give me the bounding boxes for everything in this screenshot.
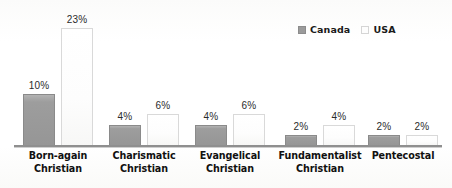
bar-canada-4[interactable]: 2% bbox=[285, 135, 317, 145]
bar-usa-1[interactable]: 23% bbox=[61, 28, 93, 145]
bar-chart: Canada USA 10%23%4%6%4%6%2%4%2%2% Born-a… bbox=[0, 0, 452, 188]
bar-rect bbox=[23, 94, 55, 145]
bar-value-label: 4% bbox=[204, 111, 219, 122]
bar-group: 4%6% bbox=[109, 0, 179, 147]
bar-rect bbox=[147, 114, 179, 145]
category-label: Born-againChristian bbox=[8, 150, 108, 175]
chart-legend: Canada USA bbox=[298, 24, 396, 35]
category-label-line1: Evangelical bbox=[200, 150, 260, 161]
bar-rect bbox=[406, 135, 438, 145]
category-label: Pentecostal bbox=[353, 150, 452, 163]
category-axis-labels: Born-againChristianCharismaticChristianE… bbox=[0, 150, 452, 188]
bar-value-label: 2% bbox=[377, 121, 392, 132]
bar-group: 4%6% bbox=[195, 0, 265, 147]
category-label-line2: Christian bbox=[180, 163, 280, 176]
canada-swatch-icon bbox=[298, 26, 306, 34]
category-label-line1: Pentecostal bbox=[372, 150, 435, 161]
legend-entry-canada[interactable]: Canada bbox=[298, 24, 350, 35]
bar-group: 2%4% bbox=[285, 0, 355, 147]
plot-area: 10%23%4%6%4%6%2%4%2%2% bbox=[0, 0, 452, 147]
category-label: CharismaticChristian bbox=[94, 150, 194, 175]
bar-rect bbox=[233, 114, 265, 145]
bar-rect bbox=[61, 28, 93, 145]
category-label-line1: Born-again bbox=[29, 150, 87, 161]
legend-entry-usa[interactable]: USA bbox=[361, 24, 395, 35]
bar-value-label: 10% bbox=[29, 80, 50, 91]
bar-rect bbox=[109, 125, 141, 145]
bar-canada-3[interactable]: 4% bbox=[195, 125, 227, 145]
category-label-line1: Fundamentalist bbox=[279, 150, 362, 161]
bar-usa-5[interactable]: 2% bbox=[406, 135, 438, 145]
category-label-line2: Christian bbox=[94, 163, 194, 176]
bar-value-label: 23% bbox=[67, 14, 88, 25]
bar-usa-2[interactable]: 6% bbox=[147, 114, 179, 145]
bar-group: 2%2% bbox=[368, 0, 438, 147]
bar-group: 10%23% bbox=[23, 0, 93, 147]
legend-label-canada: Canada bbox=[310, 24, 350, 35]
category-label-line2: Christian bbox=[270, 163, 370, 176]
bar-rect bbox=[323, 125, 355, 145]
x-axis-line bbox=[14, 145, 442, 147]
bar-usa-3[interactable]: 6% bbox=[233, 114, 265, 145]
category-label: EvangelicalChristian bbox=[180, 150, 280, 175]
bar-value-label: 4% bbox=[118, 111, 133, 122]
bar-canada-2[interactable]: 4% bbox=[109, 125, 141, 145]
bar-usa-4[interactable]: 4% bbox=[323, 125, 355, 145]
bar-rect bbox=[195, 125, 227, 145]
bar-canada-1[interactable]: 10% bbox=[23, 94, 55, 145]
category-label-line1: Charismatic bbox=[112, 150, 175, 161]
bar-canada-5[interactable]: 2% bbox=[368, 135, 400, 145]
bar-rect bbox=[368, 135, 400, 145]
bar-value-label: 4% bbox=[332, 111, 347, 122]
bar-value-label: 2% bbox=[294, 121, 309, 132]
bar-value-label: 6% bbox=[156, 100, 171, 111]
legend-label-usa: USA bbox=[373, 24, 395, 35]
bar-value-label: 6% bbox=[242, 100, 257, 111]
usa-swatch-icon bbox=[361, 26, 369, 34]
bar-rect bbox=[285, 135, 317, 145]
bar-value-label: 2% bbox=[415, 121, 430, 132]
category-label-line2: Christian bbox=[8, 163, 108, 176]
